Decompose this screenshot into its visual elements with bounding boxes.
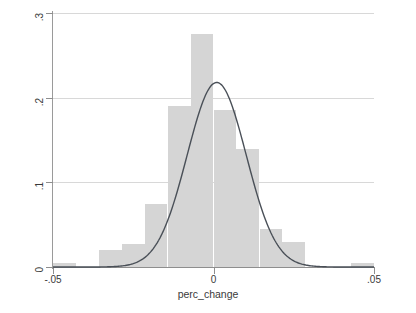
y-axis-tick bbox=[46, 182, 53, 183]
x-axis-tick-label: 0 bbox=[184, 274, 244, 285]
histogram-chart: 0.1.2.3-.050.05 perc_change bbox=[0, 0, 416, 313]
y-axis-tick bbox=[46, 267, 53, 268]
y-axis-tick-label: .2 bbox=[35, 98, 45, 106]
y-axis-tick bbox=[46, 98, 53, 99]
x-axis-tick-label: .05 bbox=[344, 274, 404, 285]
density-curve-layer bbox=[53, 13, 374, 267]
y-axis-tick-label: 0 bbox=[35, 267, 45, 273]
x-axis-tick-label: -.05 bbox=[23, 274, 83, 285]
y-axis-tick-label: .1 bbox=[35, 182, 45, 190]
density-curve-path bbox=[53, 82, 374, 267]
y-axis-tick bbox=[46, 13, 53, 14]
y-axis-tick-label: .3 bbox=[35, 13, 45, 21]
density-curve bbox=[53, 13, 374, 267]
x-axis-title: perc_change bbox=[0, 288, 416, 300]
